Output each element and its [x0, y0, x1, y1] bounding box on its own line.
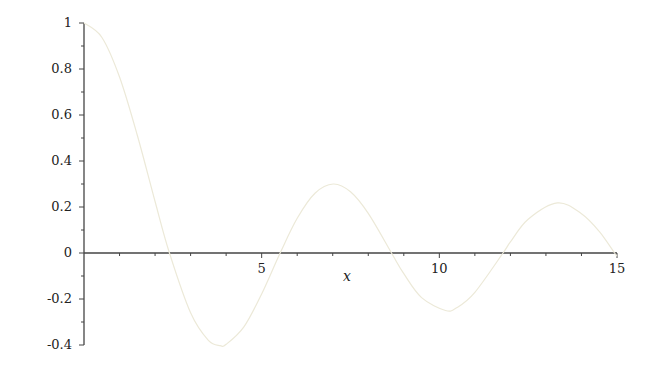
y-tick-label: 0.8: [51, 61, 72, 76]
axes: [84, 23, 617, 345]
x-tick-label: 5: [258, 261, 266, 276]
y-tick-label: 0.2: [51, 199, 72, 214]
x-tick-label: 15: [609, 261, 626, 276]
y-axis-ticks: 10.80.60.40.20-0.2-0.4: [47, 15, 84, 352]
chart: 10.80.60.40.20-0.2-0.4 51015 x: [0, 0, 656, 367]
y-tick-label: 0.4: [51, 153, 72, 168]
y-tick-label: -0.4: [47, 337, 72, 352]
x-axis-ticks: 51015: [120, 253, 626, 276]
y-tick-label: 0.6: [51, 107, 72, 122]
x-axis-label: x: [343, 268, 351, 284]
y-tick-label: -0.2: [47, 291, 72, 306]
x-tick-label: 10: [431, 261, 448, 276]
data-series-line: [84, 23, 617, 346]
y-tick-label: 1: [64, 15, 72, 30]
y-tick-label: 0: [64, 245, 72, 260]
